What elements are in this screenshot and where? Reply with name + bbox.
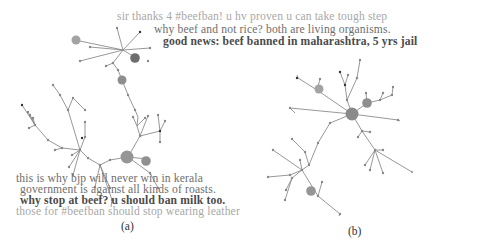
caption-b: (b): [348, 225, 361, 237]
graph-b-edges: [268, 60, 412, 216]
figure: sir thanks 4 #beefban! u hv proven u can…: [0, 0, 484, 250]
tweet-b-3: good news: beef banned in maharashtra, 5…: [163, 36, 417, 48]
graph-b-nodes: [267, 59, 413, 215]
caption-a: (a): [121, 220, 134, 232]
tweet-a-4: those for #beefban should stop wearing l…: [16, 206, 240, 218]
tweet-b-1: sir thanks 4 #beefban! u hv proven u can…: [117, 11, 387, 23]
